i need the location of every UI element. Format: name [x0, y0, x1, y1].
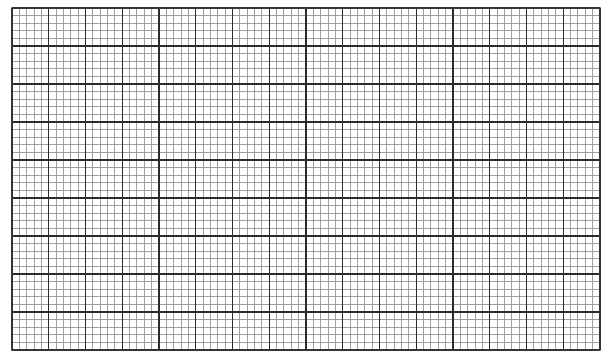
graph-paper-grid	[0, 0, 613, 360]
